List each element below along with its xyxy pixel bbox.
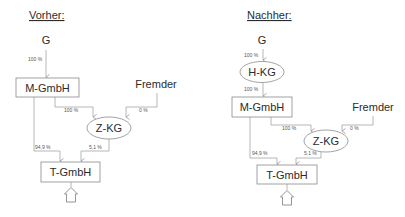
edge-label-z-kg-to-t-gmbh: 5,1 % [304, 150, 317, 156]
edge-m-gmbh-to-t-gmbh [250, 117, 277, 164]
edge-m-gmbh-to-t-gmbh [34, 97, 60, 161]
edge-label-m-gmbh-to-t-gmbh: 94,9 % [35, 144, 51, 150]
edge-label-m-gmbh-to-t-gmbh: 94,9 % [252, 150, 268, 156]
panel-title-nachher: Nachher: [247, 9, 292, 21]
house-icon [65, 182, 78, 202]
node-g: G [42, 34, 51, 46]
node-m-gmbh: M-GmbH [240, 101, 285, 113]
edge-label-g-to-h-kg: 100 % [244, 52, 259, 58]
node-t-gmbh: T-GmbH [50, 166, 92, 178]
edge-label-m-gmbh-to-z-kg: 100 % [282, 125, 297, 131]
edge-label-fremder-to-z-kg: 0 % [350, 125, 359, 131]
edge-label-g-to-m-gmbh: 100 % [28, 56, 43, 62]
edge-label-h-kg-to-m-gmbh: 100 % [244, 86, 259, 92]
node-h-kg: H-KG [248, 66, 276, 78]
edge-label-m-gmbh-to-z-kg: 100 % [64, 107, 79, 113]
ownership-diagram: Vorher: G 100 % M-GmbH Fremder 100 % 0 %… [0, 0, 405, 217]
node-fremder: Fremder [352, 101, 394, 113]
edge-fremder-to-z-kg [126, 93, 157, 117]
node-g: G [258, 34, 267, 46]
house-icon [281, 184, 294, 205]
edge-label-fremder-to-z-kg: 0 % [139, 107, 148, 113]
edge-z-kg-to-t-gmbh [81, 139, 109, 161]
node-t-gmbh: T-GmbH [266, 169, 308, 181]
node-z-kg: Z-KG [96, 122, 122, 134]
panel-nachher: Nachher: G 100 % H-KG 100 % M-GmbH Fremd… [232, 9, 394, 205]
edge-label-z-kg-to-t-gmbh: 5,1 % [89, 144, 102, 150]
node-m-gmbh: M-GmbH [25, 82, 70, 94]
panel-title-vorher: Vorher: [29, 9, 64, 21]
node-fremder: Fremder [135, 78, 177, 90]
node-z-kg: Z-KG [313, 135, 339, 147]
panel-vorher: Vorher: G 100 % M-GmbH Fremder 100 % 0 %… [16, 9, 177, 202]
